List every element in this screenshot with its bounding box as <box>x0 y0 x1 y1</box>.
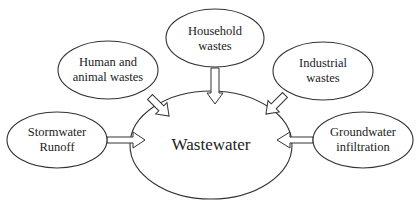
human-animal-label-line2: animal wastes <box>73 70 144 84</box>
industrial-label-line2: wastes <box>306 71 339 85</box>
human-animal-label-line1: Human and <box>79 55 138 69</box>
stormwater-label-line1: Stormwater <box>28 125 87 139</box>
groundwater-infiltration-node: Groundwater infiltration <box>313 112 413 168</box>
groundwater-label-line1: Groundwater <box>330 125 397 139</box>
stormwater-runoff-node: Stormwater Runoff <box>7 112 107 168</box>
stormwater-label-line2: Runoff <box>39 140 75 154</box>
groundwater-label-line2: infiltration <box>336 140 390 154</box>
household-label-line2: wastes <box>198 39 231 53</box>
household-wastes-node: Household wastes <box>166 9 264 67</box>
wastewater-sources-diagram: Wastewater Household wastes Human and an… <box>0 0 419 206</box>
industrial-label-line1: Industrial <box>299 56 347 70</box>
human-animal-wastes-node: Human and animal wastes <box>58 41 158 99</box>
industrial-wastes-node: Industrial wastes <box>273 42 373 100</box>
household-label-line1: Household <box>188 24 243 38</box>
wastewater-label: Wastewater <box>172 135 251 154</box>
